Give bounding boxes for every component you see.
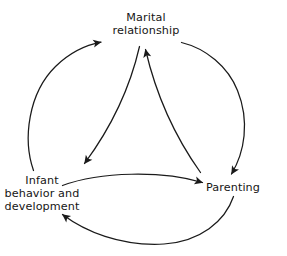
node-label-infant-behavior-and-development: Infant behavior and development bbox=[0, 174, 84, 213]
node-label-parenting: Parenting bbox=[206, 181, 280, 194]
arrow-outer-infant-to-marital bbox=[28, 42, 101, 170]
arrow-inner-parenting-to-marital bbox=[146, 50, 201, 173]
arrow-inner-marital-to-infant bbox=[85, 47, 140, 164]
node-label-marital-relationship: Marital relationship bbox=[96, 11, 196, 37]
cyclical-diagram-graphic bbox=[0, 0, 287, 256]
diagram-canvas: Marital relationship Infant behavior and… bbox=[0, 0, 287, 256]
arrow-outer-marital-to-parenting bbox=[182, 43, 245, 175]
arrow-outer-parenting-to-infant bbox=[63, 197, 234, 245]
